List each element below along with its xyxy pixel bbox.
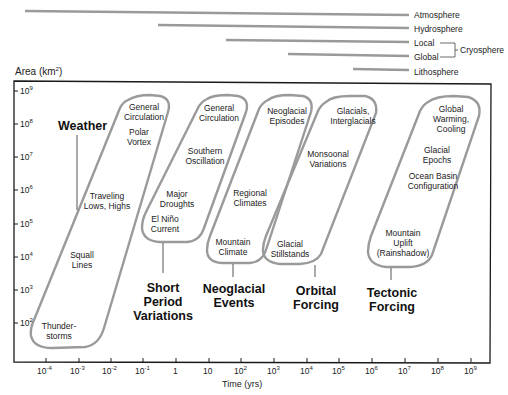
local-cryosphere-bar — [226, 40, 409, 42]
y-tick-label: 107 — [20, 152, 33, 162]
x-axis-ticks — [46, 358, 471, 362]
x-axis-title: Time (yrs) — [222, 378, 262, 390]
squall-lines-label: SquallLines — [62, 250, 102, 270]
global-cryosphere-bar — [288, 54, 409, 56]
regional-climates-label: RegionalClimates — [225, 188, 275, 208]
x-tick-label: 106 — [365, 366, 378, 376]
x-tick-label: 10-2 — [102, 366, 117, 376]
neoglacial-events-title: NeoglacialEvents — [198, 282, 270, 310]
global-label: Global — [414, 52, 439, 62]
hydrosphere-label: Hydrosphere — [414, 24, 463, 34]
hydrosphere-bar — [158, 25, 409, 28]
orbital-forcing-title: OrbitalForcing — [285, 284, 347, 312]
y-axis-title: Area (km2) — [15, 66, 62, 78]
atmosphere-bar — [25, 11, 409, 15]
southern-oscillation-label: SouthernOscillation — [180, 146, 230, 166]
x-tick-label: 103 — [267, 366, 280, 376]
weather-title: Weather — [58, 119, 107, 133]
domain-bars — [25, 11, 409, 70]
tectonic-forcing-title: TectonicForcing — [360, 286, 424, 314]
cryosphere-label: Cryosphere — [460, 45, 504, 55]
y-tick-label: 106 — [20, 185, 33, 195]
short-period-variations-title: ShortPeriodVariations — [128, 281, 198, 323]
x-tick-label: 108 — [431, 366, 444, 376]
x-tick-label: 10-3 — [70, 366, 85, 376]
monsoonal-variations-label: MonsoonalVariations — [300, 149, 356, 169]
x-tick-label: 10 — [203, 366, 212, 376]
neoglacial-episodes-label: NeoglacialEpisodes — [262, 106, 312, 126]
lithosphere-label: Lithosphere — [414, 67, 458, 77]
ocean-basin-configuration-label: Ocean BasinConfiguration — [400, 171, 466, 191]
x-tick-label: 105 — [332, 366, 345, 376]
y-tick-label: 109 — [20, 86, 33, 96]
atmosphere-label: Atmosphere — [414, 10, 460, 20]
general-circulation-2-label: GeneralCirculation — [194, 103, 244, 123]
polar-vortex-label: PolarVortex — [119, 127, 159, 147]
y-tick-label: 102 — [20, 318, 33, 328]
global-warming-cooling-label: GlobalWarming,Cooling — [426, 104, 476, 134]
y-tick-label: 105 — [20, 219, 33, 229]
x-tick-label: 1 — [173, 366, 178, 376]
y-tick-label: 104 — [20, 252, 33, 262]
thunderstorms-label: Thunder-storms — [36, 321, 82, 341]
mountain-uplift-label: MountainUplift(Rainshadow) — [375, 228, 431, 258]
lithosphere-bar — [353, 69, 409, 70]
glacials-interglacials-label: Glacials,Interglacials — [325, 106, 381, 126]
x-tick-label: 10-1 — [135, 366, 150, 376]
traveling-lows-highs-label: TravelingLows, Highs — [82, 191, 132, 211]
major-droughts-label: MajorDroughts — [155, 189, 199, 209]
x-tick-label: 104 — [300, 366, 313, 376]
x-tick-label: 109 — [464, 366, 477, 376]
glacial-epochs-label: GlacialEpochs — [412, 145, 462, 165]
x-tick-label: 10-4 — [37, 366, 52, 376]
x-tick-label: 102 — [234, 366, 247, 376]
glacial-stillstands-label: GlacialStillstands — [265, 239, 315, 259]
general-circulation-label: GeneralCirculation — [119, 102, 169, 122]
el-nino-current-label: El NiñoCurrent — [143, 214, 187, 234]
mountain-climate-label: MountainClimate — [210, 237, 256, 257]
x-tick-label: 107 — [398, 366, 411, 376]
cryosphere-bracket — [440, 43, 458, 57]
y-tick-label: 103 — [20, 285, 33, 295]
y-tick-label: 108 — [20, 119, 33, 129]
local-label: Local — [414, 38, 434, 48]
